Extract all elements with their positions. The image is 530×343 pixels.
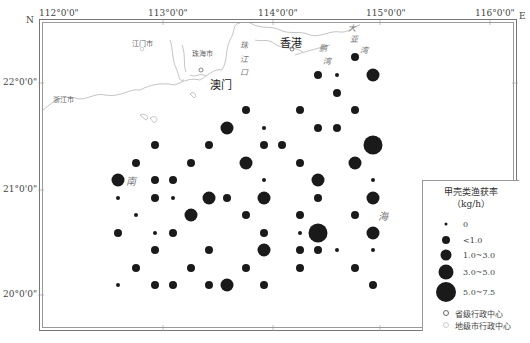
legend-dot-icon: [445, 223, 448, 226]
legend-class-label: 1.0~3.0: [463, 251, 495, 260]
station-dot: [278, 141, 286, 149]
station-dot: [187, 264, 195, 272]
station-dot: [309, 224, 328, 243]
water-label: 江: [240, 53, 248, 64]
station-dot: [260, 141, 268, 149]
station-dot: [312, 174, 325, 187]
lon-tick-116: 116°0'0": [475, 8, 515, 18]
water-label: 湾: [360, 44, 368, 55]
legend-class-label: <1.0: [463, 236, 482, 245]
station-dot: [367, 192, 380, 205]
station-dot: [258, 192, 271, 205]
water-label: 珠: [240, 39, 248, 50]
station-dot: [187, 159, 195, 167]
station-dot: [223, 194, 231, 202]
station-dot: [114, 229, 122, 237]
legend-dot-icon: [439, 265, 454, 280]
place-macau: 澳门: [210, 76, 232, 92]
station-dot: [205, 141, 213, 149]
station-dot: [112, 174, 125, 187]
lon-tick-115: 115°0'0": [366, 8, 406, 18]
north-label: N: [26, 15, 34, 25]
legend-unit: （kg/h）: [423, 197, 519, 210]
sea-label-nan: 南: [126, 173, 136, 188]
station-dot: [132, 264, 140, 272]
station-dot: [351, 211, 359, 219]
station-dot: [151, 281, 159, 289]
station-dot: [296, 264, 304, 272]
lat-tick-20: 20°0'0": [3, 289, 37, 299]
water-label: 亚: [350, 33, 358, 44]
legend-class-1: <1.0: [423, 233, 519, 247]
station-dot: [314, 194, 322, 202]
station-dot: [333, 89, 341, 97]
station-dot: [169, 229, 177, 237]
station-dot: [221, 122, 234, 135]
station-dot: [351, 106, 359, 114]
legend-class-3: 3.0~5.0: [423, 265, 519, 279]
legend-prefecture-center: 地级市行政中心: [423, 318, 519, 332]
provincial-center-icon: [443, 310, 449, 316]
station-dot: [335, 73, 339, 77]
water-label: 大: [348, 22, 356, 33]
station-dot: [169, 281, 177, 289]
place-zhejiang: 浙江市: [53, 94, 74, 104]
water-label: 湾: [323, 55, 331, 66]
station-dot: [242, 264, 250, 272]
station-dot: [260, 229, 268, 237]
east-label: E: [519, 11, 526, 21]
legend-class-4: 5.0~7.5: [423, 285, 519, 299]
lon-tick-113: 113°0'0": [148, 8, 188, 18]
station-dot: [298, 231, 302, 235]
station-dot: [116, 283, 120, 287]
lon-tick-114: 114°0'0": [258, 8, 298, 18]
station-dot: [371, 178, 375, 182]
station-dot: [351, 53, 359, 61]
legend-class-0: 0: [423, 217, 519, 231]
station-dot: [116, 196, 120, 200]
place-jiangmen: 江门市: [132, 38, 153, 48]
legend-class-label: 3.0~5.0: [463, 268, 495, 277]
water-label: 口: [240, 66, 248, 77]
station-dot: [296, 246, 304, 254]
sea-label-hai: 海: [378, 208, 388, 223]
prefecture-center-icon: [443, 322, 449, 328]
provincial-center-label: 省级行政中心: [455, 308, 503, 319]
station-dot: [151, 176, 159, 184]
station-dot: [151, 246, 159, 254]
legend-dot-icon: [436, 282, 456, 302]
station-dot: [262, 126, 266, 130]
lon-tick-112: 112°0'0": [39, 8, 79, 18]
station-dot: [151, 194, 159, 202]
station-dot: [203, 192, 216, 205]
station-dot: [314, 246, 322, 254]
station-dot: [185, 209, 198, 222]
legend-class-label: 0: [463, 220, 468, 229]
legend-dot-icon: [441, 250, 452, 261]
station-dot: [262, 178, 266, 182]
station-dot: [240, 157, 253, 170]
legend-class-label: 5.0~7.5: [463, 288, 495, 297]
station-dot: [169, 176, 177, 184]
station-dot: [296, 211, 304, 219]
station-dot: [242, 211, 250, 219]
place-hongkong: 香港: [280, 34, 302, 50]
station-dot: [351, 264, 359, 272]
station-dot: [349, 157, 362, 170]
station-dot: [221, 279, 234, 292]
station-dot: [314, 124, 322, 132]
station-dot: [296, 106, 304, 114]
legend-dot-icon: [442, 236, 450, 244]
station-dot: [242, 106, 250, 114]
station-dot: [205, 246, 213, 254]
water-label: 鹏: [319, 42, 327, 53]
station-dot: [367, 69, 380, 82]
place-zhuhai: 珠海市: [192, 48, 213, 58]
station-dot: [171, 196, 175, 200]
station-dot: [205, 281, 213, 289]
lat-tick-22: 22°0'0": [3, 77, 37, 87]
station-dot: [335, 248, 339, 252]
station-dot: [369, 281, 377, 289]
station-dot: [296, 159, 304, 167]
station-dot: [260, 281, 268, 289]
